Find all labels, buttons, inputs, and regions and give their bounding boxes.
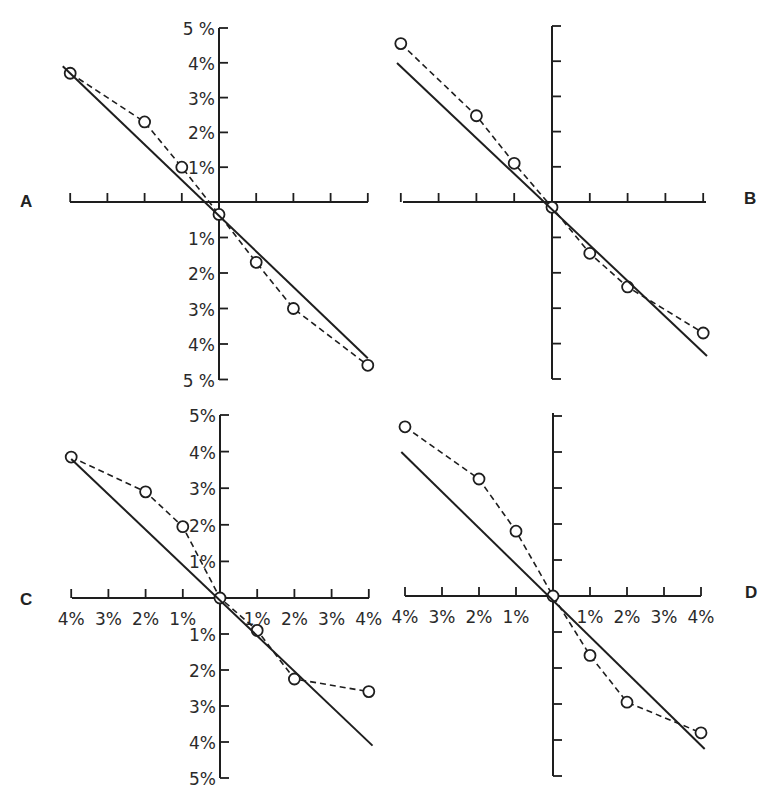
- data-point-marker: [474, 474, 485, 485]
- y-tick-label: 1%: [188, 229, 215, 249]
- data-point-marker: [509, 158, 520, 169]
- x-tick-label: 3%: [651, 607, 678, 627]
- data-point-marker: [400, 421, 411, 432]
- y-tick-label: 4%: [188, 335, 215, 355]
- data-point-marker: [698, 327, 709, 338]
- data-point-marker: [288, 303, 299, 314]
- plot-canvas: 5 %4%3%2%1%1%2%3%4%5 %5%4%3%2%1%1%2%3%4%…: [0, 0, 777, 802]
- data-point-marker: [395, 38, 406, 49]
- data-point-marker: [471, 110, 482, 121]
- y-tick-label: 5 %: [183, 19, 215, 39]
- x-tick-label: 3%: [95, 609, 122, 629]
- y-tick-label: 2%: [189, 516, 216, 536]
- panel-c: 5%4%3%2%1%1%2%3%4%5%4%3%2%1%1%2%3%4%: [58, 406, 383, 789]
- data-point-marker: [362, 360, 373, 371]
- y-tick-label: 4%: [189, 443, 216, 463]
- y-tick-label: 3%: [188, 300, 215, 320]
- fitted-line: [71, 459, 372, 746]
- x-tick-label: 2%: [614, 607, 641, 627]
- data-point-marker: [622, 697, 633, 708]
- panel-label-c: C: [20, 591, 32, 608]
- y-tick-label: 3%: [188, 89, 215, 109]
- y-tick-label: 5%: [189, 406, 216, 426]
- x-tick-label: 2%: [132, 609, 159, 629]
- data-point-marker: [176, 162, 187, 173]
- panel-label-a: A: [20, 193, 32, 210]
- x-tick-label: 3%: [318, 609, 345, 629]
- x-tick-label: 2%: [466, 607, 493, 627]
- panel-a: 5 %4%3%2%1%1%2%3%4%5 %: [63, 19, 374, 391]
- data-point-marker: [252, 625, 263, 636]
- data-point-marker: [66, 452, 77, 463]
- x-tick-label: 4%: [392, 607, 419, 627]
- x-tick-label: 1%: [577, 607, 604, 627]
- data-point-marker: [511, 526, 522, 537]
- x-tick-label: 1%: [503, 607, 530, 627]
- data-point-marker: [139, 116, 150, 127]
- fitted-line: [63, 66, 368, 358]
- data-point-marker: [585, 650, 596, 661]
- data-point-marker: [622, 281, 633, 292]
- x-tick-label: 4%: [688, 607, 715, 627]
- y-tick-label: 1%: [188, 158, 215, 178]
- x-tick-label: 4%: [58, 609, 85, 629]
- y-tick-label: 4%: [189, 733, 216, 753]
- y-tick-label: 2%: [188, 123, 215, 143]
- data-point-marker: [363, 686, 374, 697]
- x-tick-label: 3%: [429, 607, 456, 627]
- y-tick-label: 1%: [189, 552, 216, 572]
- data-point-marker: [251, 257, 262, 268]
- panel-label-b: B: [744, 190, 756, 207]
- x-tick-label: 1%: [169, 609, 196, 629]
- y-tick-label: 2%: [189, 661, 216, 681]
- four-panel-figure: 5 %4%3%2%1%1%2%3%4%5 %5%4%3%2%1%1%2%3%4%…: [0, 0, 777, 802]
- y-tick-label: 5 %: [183, 371, 215, 391]
- panel-d: 4%3%2%1%1%2%3%4%: [392, 413, 715, 776]
- panel-b: [395, 26, 708, 379]
- y-tick-label: 2%: [188, 264, 215, 284]
- x-tick-label: 4%: [355, 609, 382, 629]
- data-point-marker: [547, 202, 558, 213]
- y-tick-label: 5%: [189, 769, 216, 789]
- y-tick-label: 4%: [188, 54, 215, 74]
- y-tick-label: 3%: [189, 697, 216, 717]
- data-point-marker: [696, 727, 707, 738]
- data-point-marker: [140, 486, 151, 497]
- y-tick-label: 3%: [189, 479, 216, 499]
- data-point-marker: [177, 521, 188, 532]
- panel-label-d: D: [745, 584, 757, 601]
- x-tick-label: 2%: [281, 609, 308, 629]
